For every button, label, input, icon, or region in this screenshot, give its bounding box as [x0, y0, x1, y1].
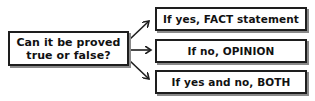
question-box: Can it be proved true or false? — [8, 31, 129, 66]
question-line-2: true or false? — [26, 49, 110, 62]
arrow-to-both — [129, 60, 149, 79]
question-line-1: Can it be proved — [16, 36, 120, 49]
outcome-fact-box: If yes, FACT statement — [155, 7, 307, 31]
outcome-both-box: If yes and no, BOTH — [155, 70, 307, 94]
arrow-to-fact — [129, 21, 149, 40]
outcome-both-label: If yes and no, BOTH — [172, 76, 291, 88]
outcome-opinion-label: If no, OPINION — [188, 45, 275, 57]
outcome-fact-label: If yes, FACT statement — [163, 13, 299, 25]
outcome-opinion-box: If no, OPINION — [155, 39, 307, 63]
